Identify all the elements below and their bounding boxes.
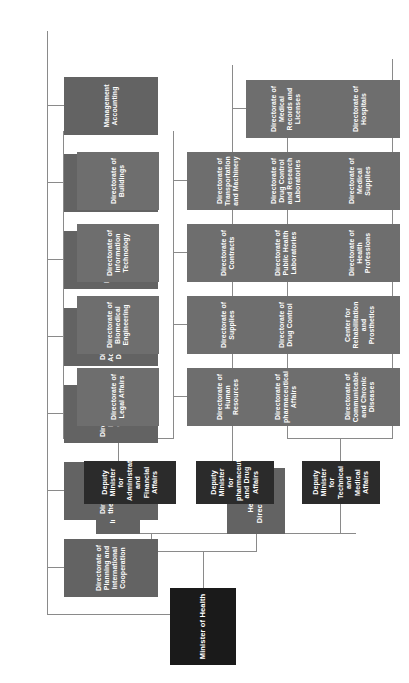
- node-directorate-communicable-chronic-diseases[interactable]: Directorate of Communicable and Chronic …: [320, 368, 400, 426]
- node-label: Directorate of Buildings: [110, 155, 126, 207]
- connector: [47, 490, 64, 491]
- connector: [340, 439, 341, 461]
- node-label: Center for Rehabilitation and Prosthetic…: [344, 299, 377, 351]
- connector: [47, 105, 64, 106]
- node-label: Deputy Minister for pharmaceutical and D…: [210, 464, 260, 501]
- node-label: Directorate of Public Health Laboratorie…: [274, 227, 298, 279]
- connector: [47, 259, 64, 260]
- node-label: Directorate of Drug Control and Research…: [270, 155, 303, 207]
- connector: [47, 413, 64, 414]
- connector: [47, 567, 64, 568]
- node-directorate-buildings[interactable]: Directorate of Buildings: [77, 152, 159, 210]
- node-label: Directorate of Contracts: [220, 227, 236, 279]
- node-management-accounting[interactable]: Management Accounting: [64, 77, 158, 135]
- connector: [340, 504, 341, 534]
- connector: [173, 131, 174, 433]
- node-label: Directorate of Health Professions: [348, 227, 372, 279]
- node-center-rehabilitation-prosthetics[interactable]: Center for Rehabilitation and Prosthetic…: [320, 296, 400, 354]
- node-label: Directorate of Human Resources: [216, 371, 240, 423]
- node-directorate-hospitals[interactable]: Directorate of Hospitals: [320, 80, 400, 138]
- connector: [392, 433, 393, 439]
- connector: [47, 182, 64, 183]
- node-deputy-minister-administrative-financial[interactable]: Deputy Minister for Administrative and F…: [84, 461, 176, 504]
- node-directorate-medical-supplies[interactable]: Directorate of Medical Supplies: [320, 152, 400, 210]
- node-label: Directorate of Hospitals: [352, 83, 368, 135]
- node-label: Directorate of Medical Supplies: [348, 155, 372, 207]
- node-label: Directorate of Drug Control: [278, 299, 294, 351]
- node-label: Minister of Health: [199, 591, 208, 662]
- node-label: Directorate of Information Technology: [106, 227, 130, 279]
- connector: [151, 551, 256, 552]
- node-deputy-minister-pharmaceutical-drug[interactable]: Deputy Minister for pharmaceutical and D…: [196, 461, 274, 504]
- connector: [173, 324, 187, 325]
- node-label: Directorate of Medical Records and Licen…: [270, 83, 303, 135]
- node-label: Directorate of Legal Affairs: [110, 371, 126, 423]
- org-chart-canvas: Minister of Health Independent Bodies He…: [0, 0, 409, 683]
- connector: [256, 534, 257, 552]
- node-label: Management Accounting: [103, 80, 119, 132]
- org-chart: Minister of Health Independent Bodies He…: [0, 0, 409, 683]
- node-directorate-planning-international-cooperation[interactable]: Directorate of Planning and Internationa…: [64, 539, 158, 597]
- node-label: Deputy Minister for Technical and Medica…: [312, 464, 371, 501]
- node-directorate-health-professions[interactable]: Directorate of Health Professions: [320, 224, 400, 282]
- node-directorate-information-technology[interactable]: Directorate of Information Technology: [77, 224, 159, 282]
- node-label: Directorate of Transportation and Machin…: [216, 155, 240, 207]
- node-directorate-legal-affairs[interactable]: Directorate of Legal Affairs: [77, 368, 159, 426]
- node-label: Directorate of Supplies: [220, 299, 236, 351]
- connector: [203, 552, 204, 588]
- connector: [173, 433, 174, 439]
- node-label: Directorate of pharmaceutical Affairs: [274, 371, 298, 423]
- node-label: Directorate of Biomedical Engineering: [106, 299, 130, 351]
- node-label: Directorate of Planning and Internationa…: [95, 542, 128, 594]
- node-directorate-medical-records-licenses[interactable]: Directorate of Medical Records and Licen…: [246, 80, 326, 138]
- node-label: Directorate of Communicable and Chronic …: [344, 371, 377, 423]
- node-minister-of-health[interactable]: Minister of Health: [170, 588, 236, 665]
- connector: [47, 336, 64, 337]
- connector: [287, 433, 288, 439]
- connector: [232, 439, 233, 461]
- connector: [173, 180, 187, 181]
- connector: [173, 396, 187, 397]
- connector: [47, 31, 48, 615]
- connector: [287, 438, 392, 439]
- connector: [232, 108, 246, 109]
- connector: [173, 252, 187, 253]
- node-directorate-biomedical-engineering[interactable]: Directorate of Biomedical Engineering: [77, 296, 159, 354]
- node-deputy-minister-technical-medical[interactable]: Deputy Minister for Technical and Medica…: [302, 461, 380, 504]
- node-label: Deputy Minister for Administrative and F…: [101, 464, 160, 501]
